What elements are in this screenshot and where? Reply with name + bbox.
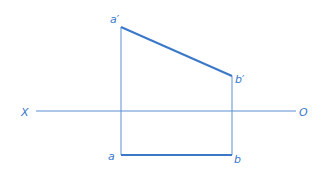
label-b: b xyxy=(234,153,241,166)
label-axis-x: X xyxy=(20,106,29,119)
projection-diagram: a′ b′ X O a b xyxy=(0,0,328,172)
label-b-prime: b′ xyxy=(235,73,245,86)
label-axis-o: O xyxy=(299,106,308,119)
label-a: a xyxy=(108,150,115,163)
label-a-prime: a′ xyxy=(110,13,120,26)
segment-a-prime-b-prime xyxy=(121,27,232,76)
